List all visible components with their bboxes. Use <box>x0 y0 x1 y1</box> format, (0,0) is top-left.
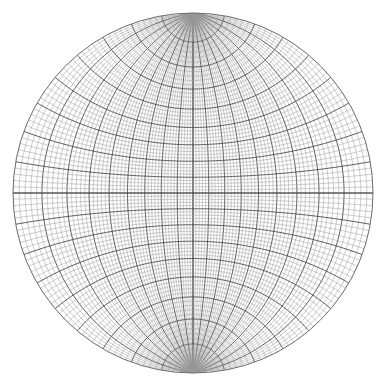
net-grid <box>13 13 373 373</box>
wulff-net <box>0 0 381 387</box>
stereonet-diagram <box>0 0 381 387</box>
